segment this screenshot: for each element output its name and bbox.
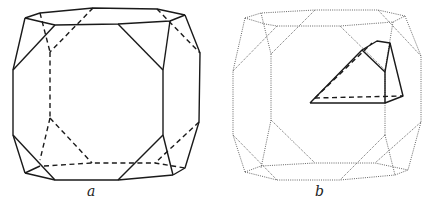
figure-a: a (0, 0, 215, 205)
truncated-cube-drawing-a (0, 0, 215, 205)
truncated-cube-drawing-b (215, 0, 431, 205)
figure-a-caption: a (87, 183, 95, 199)
highlighted-solid (310, 41, 403, 103)
figure-b: b (215, 0, 431, 205)
figure-b-caption: b (315, 183, 324, 199)
